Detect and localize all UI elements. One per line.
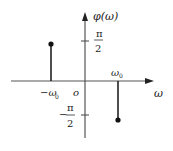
- phase-spectrum-diagram: φ(ω) π 2 − π 2 −ω 0 o ω 0 ω: [0, 0, 173, 151]
- x-axis-label: ω: [154, 87, 163, 100]
- neg-omega0-subscript: 0: [55, 93, 59, 100]
- stem-dot-pos-omega0: [115, 117, 120, 122]
- neg-half-pi-numerator: π: [67, 102, 74, 113]
- pos-omega0-label: ω: [111, 67, 119, 78]
- pos-omega0-subscript: 0: [119, 72, 123, 79]
- x-axis-arrow-icon: [145, 78, 154, 84]
- y-axis-arrow-icon: [82, 12, 88, 21]
- origin-label: o: [73, 87, 79, 98]
- y-axis-label: φ(ω): [93, 10, 118, 23]
- neg-half-pi-denominator: 2: [67, 118, 73, 129]
- stem-dot-neg-omega0: [48, 41, 53, 46]
- pos-half-pi-numerator: π: [96, 28, 103, 39]
- pos-half-pi-denominator: 2: [95, 43, 101, 54]
